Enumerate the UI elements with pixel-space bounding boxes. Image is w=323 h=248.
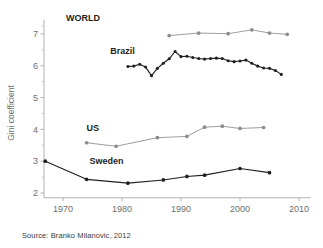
data-point-marker	[238, 59, 241, 62]
series-line	[87, 126, 264, 146]
data-point-marker	[156, 67, 159, 70]
data-point-marker	[161, 178, 165, 182]
data-point-marker	[209, 57, 212, 60]
data-point-marker	[250, 28, 254, 32]
data-point-marker	[280, 73, 283, 76]
data-point-marker	[174, 50, 177, 53]
data-point-marker	[256, 65, 259, 68]
data-point-marker	[85, 141, 89, 145]
data-point-marker	[220, 124, 224, 128]
data-point-marker	[150, 74, 153, 77]
y-axis-title: Gini coefficient	[6, 85, 16, 141]
x-tick-label: 1970	[53, 204, 73, 214]
data-point-marker	[268, 67, 271, 70]
data-point-marker	[167, 34, 171, 38]
data-point-marker	[203, 58, 206, 61]
data-point-marker	[85, 177, 89, 181]
axes-group: 23456719701980199020002010	[33, 20, 311, 214]
series-line	[128, 51, 281, 75]
data-point-marker	[138, 63, 141, 66]
data-point-marker	[156, 136, 160, 140]
data-point-marker	[203, 173, 207, 177]
x-tick-label: 2000	[230, 204, 250, 214]
data-point-marker	[215, 57, 218, 60]
series-label-brazil: Brazil	[110, 46, 135, 56]
data-point-marker	[185, 175, 189, 179]
data-point-marker	[126, 181, 130, 185]
series-label-world: WORLD	[66, 13, 100, 23]
y-tick-label: 6	[33, 61, 38, 71]
data-point-marker	[250, 62, 253, 65]
data-point-marker	[262, 126, 266, 130]
series-label-us: US	[87, 123, 100, 133]
y-tick-label: 5	[33, 93, 38, 103]
series-labels-group: WORLDBrazilUSSweden	[66, 13, 135, 166]
gini-coefficient-chart: 23456719701980199020002010 WORLDBrazilUS…	[0, 0, 323, 248]
data-point-marker	[126, 65, 129, 68]
data-point-marker	[168, 57, 171, 60]
y-tick-label: 3	[33, 156, 38, 166]
data-point-marker	[191, 56, 194, 59]
y-tick-label: 2	[33, 188, 38, 198]
y-axis-title-text: Gini coefficient	[6, 85, 16, 141]
series-line	[45, 161, 269, 183]
source-note: Source: Branko Milanovic, 2012	[22, 231, 131, 240]
data-point-marker	[268, 31, 272, 35]
data-point-marker	[262, 66, 265, 69]
series-label-sweden: Sweden	[90, 156, 124, 166]
data-point-marker	[197, 31, 201, 35]
data-point-marker	[144, 66, 147, 69]
data-point-marker	[185, 135, 189, 139]
data-point-marker	[274, 69, 277, 72]
series-brazil	[126, 50, 283, 77]
data-point-marker	[244, 59, 247, 62]
data-point-marker	[238, 127, 242, 131]
data-point-marker	[43, 159, 47, 163]
y-tick-label: 4	[33, 125, 38, 135]
data-point-marker	[221, 57, 224, 60]
data-point-marker	[268, 171, 272, 175]
series-world	[167, 28, 289, 37]
data-point-marker	[185, 55, 188, 58]
series-us	[85, 124, 266, 148]
data-point-marker	[226, 32, 230, 36]
series-sweden	[43, 159, 271, 185]
data-point-marker	[238, 167, 242, 171]
y-tick-label: 7	[33, 29, 38, 39]
data-point-marker	[197, 57, 200, 60]
data-point-marker	[227, 59, 230, 62]
data-point-marker	[285, 32, 289, 36]
data-point-marker	[162, 62, 165, 65]
data-point-marker	[132, 65, 135, 68]
series-group	[43, 28, 289, 185]
data-point-marker	[179, 55, 182, 58]
x-tick-label: 1980	[112, 204, 132, 214]
chart-plot-area: 23456719701980199020002010 WORLDBrazilUS…	[0, 0, 323, 248]
x-tick-label: 2010	[289, 204, 309, 214]
data-point-marker	[114, 144, 118, 148]
data-point-marker	[233, 60, 236, 63]
x-tick-label: 1990	[171, 204, 191, 214]
data-point-marker	[203, 125, 207, 129]
